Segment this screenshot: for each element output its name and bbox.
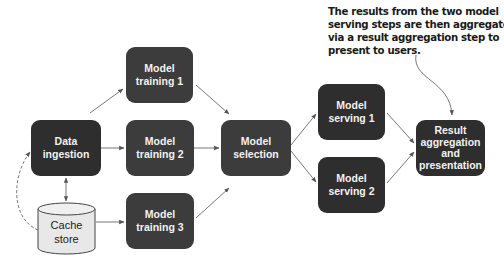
node-data-ingestion: Data ingestion [31,120,101,176]
node-model-training-1: Model training 1 [126,47,193,103]
node-result-aggregation: Result aggregation and presentation [416,120,485,176]
node-label: Result [419,125,482,137]
edge-training1-to-selection [196,85,229,114]
callout-annotation: The results from the two model serving s… [328,5,504,57]
node-label: Model [328,172,374,185]
node-label: store [38,232,95,246]
annotation-line: The results from the two model [328,5,504,18]
annotation-line: via a result aggregation step to [328,31,504,44]
node-label: training 3 [136,221,183,234]
node-label: and [419,148,482,160]
node-model-training-2: Model training 2 [126,120,194,176]
edge-selection-to-serving1 [291,114,316,145]
node-model-selection: Model selection [221,120,291,176]
node-label: selection [233,148,279,161]
cache-store-label: Cache store [38,218,95,246]
node-model-serving-2: Model serving 2 [318,157,385,213]
node-model-training-3: Model training 3 [126,193,194,249]
node-label: training 1 [136,75,183,88]
node-label: Cache [38,218,95,232]
edge-ingestion-to-training1 [90,89,123,113]
node-model-serving-1: Model serving 1 [318,84,385,140]
node-label: serving 2 [328,185,374,198]
node-label: Model [136,135,183,148]
node-label: Model [233,135,279,148]
node-label: Model [136,62,183,75]
annotation-line: present to users. [328,44,504,57]
edge-selection-to-serving2 [291,151,316,182]
node-label: Data ingestion [33,135,99,161]
callout-pointer [416,55,452,115]
node-label: Model [136,208,183,221]
edge-serving2-to-result [387,152,414,183]
node-label: presentation [419,160,482,172]
annotation-line: serving steps are then aggregated [328,18,504,31]
node-label: serving 1 [328,112,374,125]
edge-training3-to-selection [196,188,229,218]
node-label: training 2 [136,148,183,161]
edge-serving1-to-result [387,113,414,143]
node-label: Model [328,99,374,112]
